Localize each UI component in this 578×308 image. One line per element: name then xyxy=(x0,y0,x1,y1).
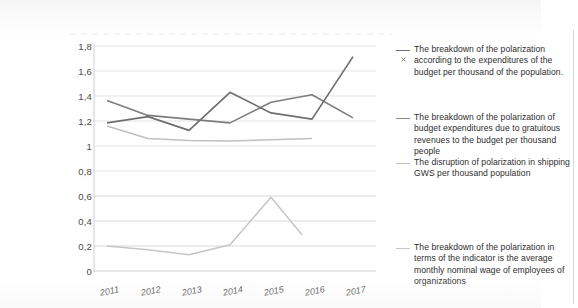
series-line-budget-expenditures xyxy=(107,57,353,131)
legend-label: The disruption of polarization in shippi… xyxy=(414,157,572,180)
legend-marker-line-icon xyxy=(396,159,410,169)
legend-item-budget-expenditures[interactable]: The breakdown of the polarization accord… xyxy=(396,44,572,78)
plot-svg xyxy=(40,16,392,308)
legend-marker-line-icon xyxy=(396,46,410,56)
series-line-gratuitous-revenues xyxy=(107,95,353,123)
legend-item-gratuitous-revenues[interactable]: The breakdown of the polarization of bud… xyxy=(396,112,572,158)
series-line-shipping-gws xyxy=(107,126,312,141)
line-chart-figure: 1,8 1,6 1,4 1,2 1 0,8 0,6 0,4 0,2 0 2011… xyxy=(40,16,578,308)
legend-x-marker-icon xyxy=(401,57,406,62)
legend-marker-line-icon xyxy=(396,244,410,254)
chart-legend: The breakdown of the polarization accord… xyxy=(396,36,574,308)
legend-right-divider xyxy=(573,30,574,304)
legend-label: The breakdown of the polarization accord… xyxy=(414,44,572,78)
legend-label: The breakdown of the polarization in ter… xyxy=(414,242,572,288)
legend-item-shipping-gws[interactable]: The disruption of polarization in shippi… xyxy=(396,157,572,180)
legend-item-nominal-wage[interactable]: The breakdown of the polarization in ter… xyxy=(396,242,572,288)
plot-area: 1,8 1,6 1,4 1,2 1 0,8 0,6 0,4 0,2 0 2011… xyxy=(40,16,392,308)
legend-label: The breakdown of the polarization of bud… xyxy=(414,112,572,158)
legend-marker-line-icon xyxy=(396,114,410,124)
gridlines xyxy=(94,46,376,271)
